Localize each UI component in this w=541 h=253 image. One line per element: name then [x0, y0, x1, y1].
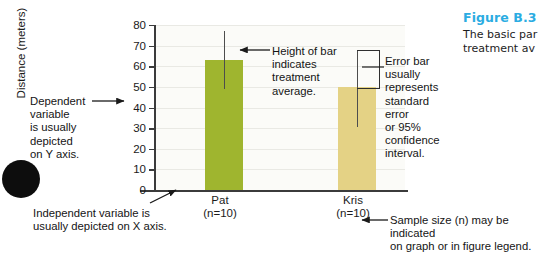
y-axis-tick [149, 108, 154, 109]
x-category-pat-label: Pat [180, 194, 260, 207]
annotation-height-of-bar-line: average. [272, 85, 344, 98]
annotation-independent-variable: Independent variable isusually depicted … [33, 207, 193, 233]
annotation-height-of-bar-line: treatment [272, 71, 344, 84]
annotation-independent-variable-line: Independent variable is [33, 207, 193, 220]
y-axis-tick [149, 128, 154, 129]
y-axis-tick [149, 149, 154, 150]
y-axis-tick-label: 0 [112, 184, 146, 196]
y-axis-title: Distance (meters) [15, 0, 27, 118]
annotation-dependent-variable-line: on Y axis. [30, 148, 125, 161]
annotation-dependent-variable-line: depicted [30, 135, 125, 148]
annotation-dependent-variable-line: is usually [30, 121, 125, 134]
y-axis-tick [149, 25, 154, 26]
annotation-error-bar-line: represents [385, 81, 455, 94]
y-axis-tick-label: 80 [112, 19, 146, 31]
y-axis-tick [149, 87, 154, 88]
figure-caption-title: Figure B.3 [463, 10, 541, 25]
y-axis-tick-label: 60 [112, 60, 146, 72]
annotation-dependent-variable-line: Dependent [30, 95, 125, 108]
annotation-error-bar-line: standard error [385, 95, 455, 121]
annotation-error-bar: Error barusuallyrepresentsstandard error… [385, 55, 455, 161]
y-axis-tick [149, 190, 154, 191]
annotation-independent-variable-line: usually depicted on X axis. [33, 220, 193, 233]
annotation-height-of-bar-line: Height of bar [272, 45, 344, 58]
annotation-dependent-variable: Dependentvariableis usuallydepictedon Y … [30, 95, 125, 161]
y-axis-tick-label: 70 [112, 40, 146, 52]
figure-caption-body-line: The basic par [463, 28, 541, 42]
annotation-dependent-variable-line: variable [30, 108, 125, 121]
annotation-error-bar-line: or 95% [385, 121, 455, 134]
y-axis-tick [149, 66, 154, 67]
page-edge-artifact [2, 160, 40, 198]
error-bar-bracket-kris [357, 50, 380, 89]
y-axis-tick [149, 46, 154, 47]
x-category-kris: Kris (n=10) [313, 194, 393, 220]
annotation-sample-size-line: on graph or in figure legend. [390, 240, 540, 253]
annotation-error-bar-line: usually [385, 68, 455, 81]
figure-caption-body: The basic partreatment av [463, 28, 541, 56]
annotation-error-bar-line: Error bar [385, 55, 455, 68]
annotation-sample-size-line: Sample size (n) may be indicated [390, 214, 540, 240]
annotation-sample-size: Sample size (n) may be indicatedon graph… [390, 214, 540, 253]
arrow-independent-variable [150, 190, 176, 203]
error-bar-pat [224, 31, 225, 89]
y-axis-tick [149, 169, 154, 170]
annotation-error-bar-line: interval. [385, 147, 455, 160]
figure-caption: Figure B.3 The basic partreatment av [463, 10, 541, 56]
y-axis-tick-label: 50 [112, 81, 146, 93]
figure-caption-body-line: treatment av [463, 42, 541, 56]
y-axis-tick-label: 10 [112, 163, 146, 175]
x-category-kris-n: (n=10) [313, 207, 393, 220]
annotation-error-bar-line: confidence [385, 134, 455, 147]
x-axis-line [140, 190, 408, 192]
annotation-height-of-bar-line: indicates [272, 58, 344, 71]
x-category-kris-label: Kris [313, 194, 393, 207]
annotation-height-of-bar: Height of barindicatestreatmentaverage. [272, 45, 344, 98]
